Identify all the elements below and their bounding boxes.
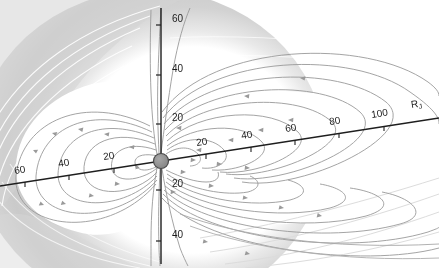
tick-label-vertical-40: 40 <box>172 64 183 74</box>
tick-label-tilted-right-80: 80 <box>328 115 341 127</box>
planet-disk <box>154 154 169 169</box>
magnetosheath-shading <box>0 0 439 268</box>
tick-label-tilted-left-60: 60 <box>13 164 26 176</box>
tick-label-tilted-right-60: 60 <box>284 122 297 134</box>
tick-label-tilted-left-40: 40 <box>57 157 70 169</box>
axis-unit-label: RJ <box>410 98 422 111</box>
tick-label-tilted-left-20: 20 <box>102 150 115 162</box>
tick-label-tilted-right-20: 20 <box>195 136 208 148</box>
tick-label-vertical-minus20: 20 <box>172 179 183 189</box>
tick-label-tilted-right-40: 40 <box>240 129 253 141</box>
field-diagram-svg <box>0 0 439 268</box>
tick-label-vertical-minus40: 40 <box>172 230 183 240</box>
tick-label-vertical-20: 20 <box>172 113 183 123</box>
magnetosphere-figure: 60 40 20 20 40 60 40 20 20 40 60 80 100 … <box>0 0 439 268</box>
tick-label-vertical-60: 60 <box>172 14 183 24</box>
